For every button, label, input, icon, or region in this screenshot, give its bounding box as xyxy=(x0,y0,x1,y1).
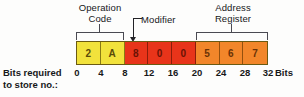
bit-tick: 24 xyxy=(216,67,227,78)
bit-tick: 12 xyxy=(144,67,155,78)
bit-field-cell: A xyxy=(101,42,125,64)
bit-tick: 20 xyxy=(192,67,203,78)
address-register-caption: Address Register xyxy=(192,2,274,24)
address-register-bracket xyxy=(196,32,268,40)
bit-field-cell: 0 xyxy=(172,42,196,64)
bit-field-cell: 2 xyxy=(77,42,101,64)
bit-tick: 16 xyxy=(168,67,179,78)
bit-tick: 4 xyxy=(98,67,103,78)
bit-field-cell: 8 xyxy=(125,42,149,64)
instruction-word-bar: 2 A 8 0 0 5 6 7 xyxy=(76,41,268,65)
bit-field-cell: 7 xyxy=(243,42,267,64)
bit-tick: 28 xyxy=(240,67,251,78)
bit-field-cell: 5 xyxy=(196,42,220,64)
operation-code-bracket xyxy=(76,32,124,40)
modifier-caption: Modifier xyxy=(141,14,176,25)
bit-tick: 8 xyxy=(122,67,127,78)
bit-field-cell: 6 xyxy=(220,42,244,64)
bits-unit-label: Bits xyxy=(275,67,293,78)
bit-field-cell: 0 xyxy=(148,42,172,64)
instruction-word-diagram: Operation Code Modifier Address Register… xyxy=(0,0,304,97)
bits-required-row-label: Bits required to store no.: xyxy=(3,67,73,91)
bit-tick: 0 xyxy=(74,67,79,78)
operation-code-caption: Operation Code xyxy=(62,2,138,24)
bit-tick: 32 xyxy=(263,67,274,78)
